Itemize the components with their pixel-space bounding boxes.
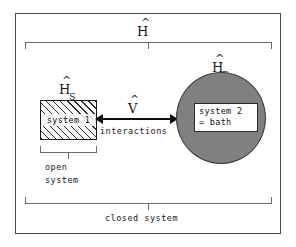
closed-system-label: closed system	[105, 213, 178, 223]
hat-accent-total: ^	[141, 16, 150, 29]
closed-system-bracket-tick	[148, 204, 149, 210]
hat-accent-bath: ^	[215, 52, 224, 65]
hat-accent-system: ^	[62, 74, 71, 87]
total-hamiltonian-label: ^ H	[137, 21, 148, 40]
closed-system-bracket	[25, 197, 272, 204]
system-1-box: system 1	[40, 100, 97, 140]
system-2-label-box: system 2 = bath	[194, 103, 258, 132]
open-system-label-line2: system	[45, 175, 79, 185]
system-1-label: system 1	[41, 114, 96, 126]
interaction-arrow-head-left	[95, 114, 103, 124]
system-hamiltonian-label: ^ HS	[59, 79, 77, 100]
interactions-label: interactions	[100, 126, 167, 136]
diagram-canvas: ^ H ^ HS system 1 open system ^ V intera…	[0, 0, 296, 247]
system-2-label-line1: system 2	[199, 106, 253, 117]
interaction-arrow-line	[103, 118, 177, 120]
total-hamiltonian-bracket-tick	[148, 42, 149, 49]
hat-accent-interaction: ^	[130, 93, 139, 106]
open-system-bracket	[40, 146, 97, 153]
interaction-operator-label: ^ V	[128, 98, 137, 117]
open-system-label-line1: open	[45, 162, 67, 172]
open-system-bracket-tick	[68, 153, 69, 159]
system-2-label-line2: = bath	[199, 117, 253, 128]
